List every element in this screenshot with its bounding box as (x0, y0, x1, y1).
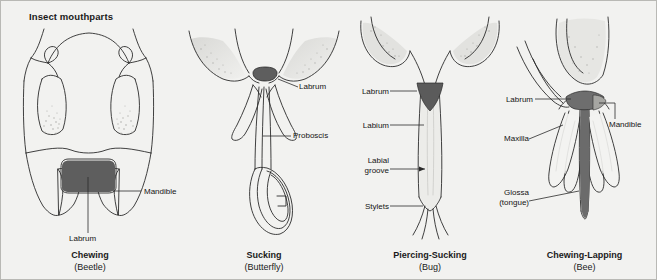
caption-taxon: (Bee) (511, 262, 657, 274)
labrum-shading (417, 83, 443, 111)
label-labial-line2: groove (365, 166, 389, 175)
bug-head-drawing (349, 1, 511, 280)
caption-taxon: (Butterfly) (179, 262, 349, 274)
label-mandible-text: Mandible (144, 187, 176, 196)
head-lobe-left (363, 23, 407, 65)
label-labrum-text: Labrum (362, 87, 389, 96)
label-labrum-text: Labrum (299, 82, 326, 91)
label-labrum-bug: Labrum (349, 87, 389, 97)
caption-name: Chewing (1, 250, 179, 262)
label-maxilla-text: Maxilla (504, 134, 529, 143)
caption-name: Sucking (179, 250, 349, 262)
label-labrum-text: Labrum (69, 234, 96, 243)
label-mandible-text: Mandible (609, 120, 641, 129)
caption-chewing-lapping-bee: Chewing-Lapping (Bee) (511, 250, 657, 273)
caption-sucking-butterfly: Sucking (Butterfly) (179, 250, 349, 273)
insect-mouthparts-figure: Insect mouthparts (0, 0, 657, 280)
glossa-shading (580, 109, 590, 218)
labrum-shading (62, 161, 115, 193)
label-labium-text: Labium (363, 121, 389, 130)
label-labrum-beetle: Labrum (69, 234, 96, 244)
caption-taxon: (Bug) (349, 262, 511, 274)
bee-head-drawing (511, 1, 657, 280)
eye-stipple-right (116, 106, 133, 135)
caption-piercing-sucking-bug: Piercing-Sucking (Bug) (349, 250, 511, 273)
panel-sucking-butterfly: Labrum Proboscis Sucking (Butterfly) (179, 1, 349, 280)
label-labrum-text: Labrum (506, 95, 533, 104)
label-maxilla-bee: Maxilla (489, 134, 529, 144)
caption-name: Piercing-Sucking (349, 250, 511, 262)
label-labial-line1: Labial (368, 156, 389, 165)
caption-name: Chewing-Lapping (511, 250, 657, 262)
butterfly-head-drawing (179, 1, 349, 280)
label-glossa-line2: (tongue) (499, 198, 529, 207)
caption-taxon: (Beetle) (1, 262, 179, 274)
panel-chewing-beetle: Mandible Labrum Chewing (Beetle) (1, 1, 179, 280)
labrum-shading (253, 67, 277, 81)
label-stylets-bug: Stylets (349, 202, 389, 212)
label-proboscis-butterfly: Proboscis (293, 131, 328, 141)
panel-chewing-lapping-bee: Labrum Mandible Maxilla Glossa (tongue) … (511, 1, 657, 280)
label-stylets-text: Stylets (365, 202, 389, 211)
eye-stipple-left (43, 106, 60, 135)
label-labrum-butterfly: Labrum (299, 82, 326, 92)
label-mandible-bee: Mandible (609, 120, 641, 130)
label-glossa-line1: Glossa (504, 188, 529, 197)
caption-chewing-beetle: Chewing (Beetle) (1, 250, 179, 273)
label-mandible-beetle: Mandible (144, 187, 176, 197)
label-labium-bug: Labium (349, 121, 389, 131)
label-labial-groove-bug: Labial groove (349, 156, 389, 175)
label-labrum-bee: Labrum (493, 95, 533, 105)
label-proboscis-text: Proboscis (293, 131, 328, 140)
label-glossa-bee: Glossa (tongue) (489, 188, 529, 207)
head-lobe-right (453, 23, 497, 65)
panel-piercing-sucking-bug: Labrum Labium Labial groove Stylets Pier… (349, 1, 511, 280)
